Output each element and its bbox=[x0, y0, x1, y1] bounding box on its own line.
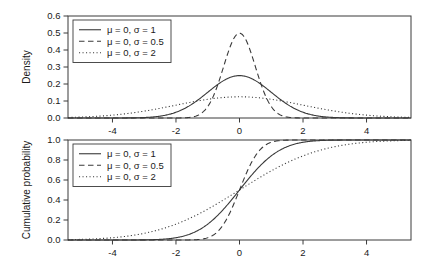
legend-label: μ = 0, σ = 2 bbox=[107, 171, 156, 182]
y-tick-label: 0.1 bbox=[47, 95, 60, 106]
x-tick-label: -2 bbox=[172, 247, 180, 258]
chart-canvas: -4-20240.00.10.20.30.40.50.6Densityμ = 0… bbox=[0, 0, 428, 276]
legend-label: μ = 0, σ = 1 bbox=[107, 24, 156, 35]
x-tick-label: 0 bbox=[237, 247, 242, 258]
x-tick-label: 2 bbox=[300, 125, 305, 136]
legend-label: μ = 0, σ = 0.5 bbox=[107, 36, 164, 47]
y-tick-label: 0.2 bbox=[47, 214, 60, 225]
y-tick-label: 0.0 bbox=[47, 234, 60, 245]
legend-label: μ = 0, σ = 2 bbox=[107, 47, 156, 58]
y-tick-label: 0.6 bbox=[47, 174, 60, 185]
legend-label: μ = 0, σ = 0.5 bbox=[107, 160, 164, 171]
normal-distribution-figure: -4-20240.00.10.20.30.40.50.6Densityμ = 0… bbox=[0, 0, 428, 276]
x-tick-label: 4 bbox=[364, 247, 369, 258]
x-tick-label: 4 bbox=[364, 125, 369, 136]
y-tick-label: 0.4 bbox=[47, 194, 60, 205]
x-tick-label: 2 bbox=[300, 247, 305, 258]
y-tick-label: 0.2 bbox=[47, 78, 60, 89]
x-tick-label: -4 bbox=[108, 247, 116, 258]
y-tick-label: 0.4 bbox=[47, 44, 60, 55]
y-tick-label: 0.6 bbox=[47, 10, 60, 21]
y-axis-title: Density bbox=[21, 50, 32, 83]
x-tick-label: -4 bbox=[108, 125, 116, 136]
y-tick-label: 0.8 bbox=[47, 154, 60, 165]
series-curve-dotted bbox=[68, 97, 411, 118]
y-tick-label: 1.0 bbox=[47, 134, 60, 145]
cumulative-probability-panel: -4-20240.00.20.40.60.81.0Cumulative prob… bbox=[21, 134, 411, 257]
y-axis-title: Cumulative probability bbox=[21, 141, 32, 239]
y-tick-label: 0.5 bbox=[47, 27, 60, 38]
legend-label: μ = 0, σ = 1 bbox=[107, 148, 156, 159]
y-tick-label: 0.3 bbox=[47, 61, 60, 72]
series-curve-solid bbox=[68, 76, 411, 118]
x-tick-label: -2 bbox=[172, 125, 180, 136]
y-tick-label: 0.0 bbox=[47, 112, 60, 123]
density-panel: -4-20240.00.10.20.30.40.50.6Densityμ = 0… bbox=[21, 10, 411, 135]
x-tick-label: 0 bbox=[237, 125, 242, 136]
